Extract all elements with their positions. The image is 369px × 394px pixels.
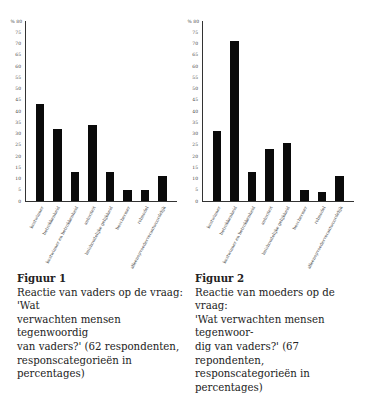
y-tick-label: 10 (177, 176, 198, 181)
bar (71, 172, 80, 201)
x-tick-label: kostwinner (205, 205, 221, 229)
y-tick-label: 5 (0, 187, 21, 192)
bar (300, 190, 309, 201)
y-tick-label: 60 (0, 64, 21, 69)
x-axis-line (202, 201, 354, 202)
x-tick-label: kostwinner en betrokkenheid (44, 205, 78, 264)
bar (213, 131, 222, 201)
figure-2-title: Figuur 2 (195, 272, 369, 286)
bar (53, 129, 62, 201)
figure-1-title: Figuur 1 (17, 272, 192, 286)
y-tick-label: 55 (177, 75, 198, 80)
bar (283, 143, 292, 202)
figure-1-caption: Figuur 1 Reactie van vaders op de vraag:… (17, 272, 192, 381)
y-tick-label: 55 (0, 75, 21, 80)
bar (318, 192, 327, 201)
caption-line: 'Wat verwachten mensen tegenwoor- (195, 313, 369, 340)
y-tick-label: 0 (177, 199, 198, 204)
y-tick-label: 20 (177, 154, 198, 159)
x-tick-label: kostwinner en betrokkenheid (221, 205, 255, 264)
caption-line: verwachten mensen tegenwoordig (17, 313, 192, 340)
bar (248, 172, 257, 201)
figure-1-chart: 051015202530354045505560657075% 80kostwi… (0, 0, 184, 262)
y-tick-label: 45 (177, 97, 198, 102)
bar (335, 176, 344, 201)
y-tick-label: % 80 (177, 19, 199, 24)
x-tick-label: betrokkenheid (42, 205, 61, 235)
figure-2-chart: 051015202530354045505560657075% 80kostwi… (177, 0, 361, 262)
bar (88, 125, 97, 202)
y-tick-label: 30 (0, 131, 21, 136)
figure-2-caption: Figuur 2 Reactie van moeders op de vraag… (195, 272, 369, 394)
y-tick-label: 70 (177, 41, 198, 46)
y-tick-label: 40 (0, 109, 21, 114)
caption-line: van vaders?' (62 respondenten, (17, 340, 192, 354)
caption-line: dig van vaders?' (67 repondenten, (195, 340, 369, 367)
bar (106, 172, 115, 201)
y-tick-label: 15 (0, 165, 21, 170)
y-axis-line (202, 21, 203, 201)
x-tick-label: rolmodel (313, 205, 327, 224)
y-tick-label: 10 (0, 176, 21, 181)
bar (158, 176, 167, 201)
y-tick-label: 35 (0, 120, 21, 125)
x-tick-label: alleenopvoederverantwoordelijk (129, 205, 166, 269)
y-tick-label: 25 (0, 142, 21, 147)
bar (265, 149, 274, 201)
y-tick-label: 5 (177, 187, 198, 192)
bar (36, 104, 45, 201)
y-tick-label: % 80 (0, 19, 22, 24)
y-tick-label: 75 (177, 30, 198, 35)
y-tick-label: 30 (177, 131, 198, 136)
y-tick-label: 20 (0, 154, 21, 159)
y-tick-label: 50 (177, 86, 198, 91)
y-tick-label: 75 (0, 30, 21, 35)
caption-line: Reactie van moeders op de vraag: (195, 286, 369, 313)
y-tick-label: 15 (177, 165, 198, 170)
x-tick-label: beschermer (292, 205, 309, 230)
y-tick-label: 60 (177, 64, 198, 69)
x-tick-label: kostwinner (28, 205, 44, 229)
y-tick-label: 0 (0, 199, 21, 204)
x-tick-label: alleenopvoederverantwoordelijk (306, 205, 343, 269)
y-tick-label: 45 (0, 97, 21, 102)
x-tick-label: rolmodel (136, 205, 150, 224)
y-tick-label: 65 (177, 52, 198, 57)
x-tick-label: autoriteit (83, 205, 97, 225)
bar (141, 190, 150, 201)
y-tick-label: 40 (177, 109, 198, 114)
y-tick-label: 65 (0, 52, 21, 57)
bar (230, 41, 239, 201)
bar (123, 190, 132, 201)
x-tick-label: betrokkenheid (219, 205, 238, 235)
y-tick-label: 25 (177, 142, 198, 147)
caption-line: responscategorieën in percentages) (195, 367, 369, 394)
x-tick-label: beschermer (115, 205, 132, 230)
caption-line: Reactie van vaders op de vraag: 'Wat (17, 286, 192, 313)
y-tick-label: 70 (0, 41, 21, 46)
caption-line: responscategorieën in percentages) (17, 354, 192, 381)
y-tick-label: 50 (0, 86, 21, 91)
x-tick-label: autoriteit (260, 205, 274, 225)
y-axis-line (25, 21, 26, 201)
y-tick-label: 35 (177, 120, 198, 125)
x-axis-line (25, 201, 177, 202)
